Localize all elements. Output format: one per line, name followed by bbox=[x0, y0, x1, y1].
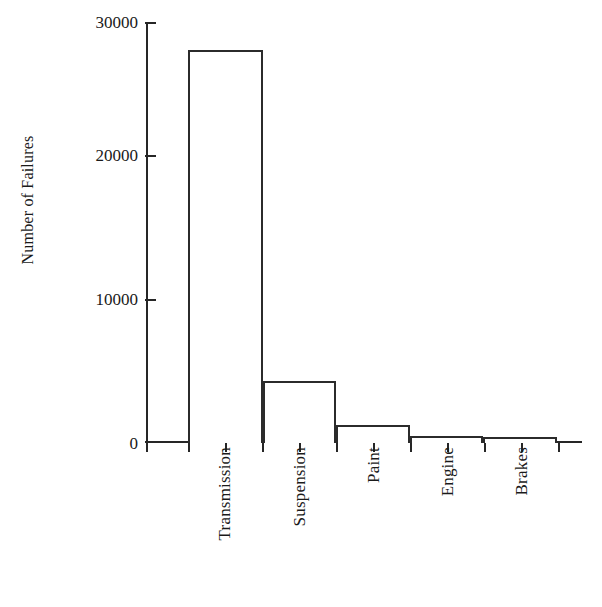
bar-transmission bbox=[188, 50, 263, 443]
plot-area bbox=[146, 22, 582, 443]
bar-paint bbox=[336, 425, 410, 443]
y-axis-tick-labels: 30000 20000 10000 0 bbox=[40, 0, 138, 460]
x-label-brakes: Brakes bbox=[511, 447, 533, 597]
y-axis-line bbox=[146, 22, 148, 443]
y-axis-title: Number of Failures bbox=[15, 110, 41, 290]
y-tick-20000 bbox=[145, 155, 156, 157]
y-tick-10000 bbox=[145, 299, 156, 301]
x-label-suspension: Suspension bbox=[289, 447, 311, 597]
bar-chart: Number of Failures 30000 20000 10000 0 bbox=[0, 0, 602, 607]
x-label-paint: Paint bbox=[363, 447, 385, 597]
bar-engine bbox=[410, 436, 483, 443]
x-label-engine: Engine bbox=[437, 447, 459, 597]
bar-suspension bbox=[263, 381, 336, 443]
y-tick-30000 bbox=[145, 22, 156, 24]
y-tick-label-10000: 10000 bbox=[46, 291, 138, 308]
x-label-transmission: Transmission bbox=[214, 447, 236, 597]
y-tick-label-0: 0 bbox=[46, 435, 138, 452]
y-tick-label-20000: 20000 bbox=[46, 147, 138, 164]
bar-brakes bbox=[483, 437, 557, 443]
x-axis-category-labels: Transmission Suspension Paint Engine Bra… bbox=[146, 447, 582, 607]
y-tick-label-30000: 30000 bbox=[46, 14, 138, 31]
